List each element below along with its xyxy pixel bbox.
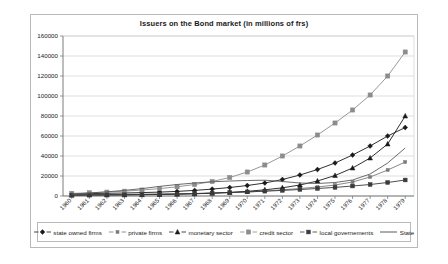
- data-point: [307, 230, 311, 234]
- legend-marker-triangle-icon: [169, 228, 186, 236]
- x-tick-label: 1979: [392, 197, 406, 211]
- data-point: [210, 191, 214, 195]
- data-point: [386, 74, 390, 78]
- x-tick-label: 1969: [217, 197, 231, 211]
- data-point: [245, 190, 249, 194]
- legend-item-private-firms[interactable]: private firms: [109, 228, 162, 236]
- y-tick-label: 80000: [41, 112, 59, 119]
- data-point: [193, 192, 197, 196]
- data-point: [403, 50, 407, 54]
- legend-item-state-owned-firms[interactable]: state owned firms: [34, 228, 102, 236]
- data-point: [158, 192, 162, 196]
- legend-label: monetary sector: [189, 229, 233, 236]
- data-point: [368, 183, 372, 187]
- data-point: [350, 108, 354, 112]
- x-tick-label: 1978: [375, 197, 389, 211]
- y-tick-label: 60000: [41, 132, 59, 139]
- x-tick-label: 1972: [269, 197, 283, 211]
- legend-item-State[interactable]: State: [380, 228, 414, 236]
- legend-label: State: [400, 229, 414, 236]
- data-point: [175, 192, 179, 196]
- chart-legend: state owned firmsprivate firmsmonetary s…: [37, 222, 411, 242]
- data-point: [105, 193, 109, 197]
- legend-label: state owned firms: [53, 229, 102, 236]
- data-point: [140, 193, 144, 197]
- legend-label: local governements: [320, 229, 374, 236]
- legend-marker-dash-dot-icon: [300, 228, 317, 236]
- x-tick-label: 1976: [340, 197, 354, 211]
- x-tick-label: 1973: [287, 197, 301, 211]
- data-point: [298, 144, 302, 148]
- data-point: [280, 189, 284, 193]
- x-tick-label: 1965: [147, 197, 161, 211]
- legend-label: credit sector: [259, 229, 293, 236]
- chart-container: Issuers on the Bond market (in millions …: [0, 0, 448, 264]
- data-point: [263, 163, 267, 167]
- data-point: [386, 181, 390, 185]
- y-tick-label: 100000: [37, 92, 58, 99]
- legend-marker-diamond-icon: [34, 228, 51, 236]
- data-point: [228, 175, 232, 179]
- data-point: [87, 193, 91, 197]
- data-point: [351, 184, 355, 188]
- data-point: [116, 231, 119, 234]
- data-point: [333, 121, 337, 125]
- x-tick-label: 1962: [94, 197, 108, 211]
- x-tick-label: 1977: [357, 197, 371, 211]
- x-tick-label: 1966: [164, 197, 178, 211]
- data-point: [246, 230, 250, 234]
- y-tick-label: 40000: [41, 152, 59, 159]
- data-point: [404, 161, 407, 164]
- legend-item-monetary-sector[interactable]: monetary sector: [169, 228, 233, 236]
- data-point: [228, 191, 232, 195]
- data-point: [316, 187, 320, 191]
- y-tick-label: 120000: [37, 72, 58, 79]
- data-point: [369, 176, 372, 179]
- data-point: [175, 185, 179, 189]
- x-tick-label: 1961: [76, 197, 90, 211]
- legend-marker-none-icon: [380, 228, 397, 236]
- legend-item-credit-sector[interactable]: credit sector: [240, 228, 293, 236]
- data-point: [40, 230, 45, 235]
- legend-label: private firms: [128, 229, 162, 236]
- y-tick-label: 140000: [37, 52, 58, 59]
- x-tick-label: 1974: [304, 197, 318, 211]
- x-tick-label: 1971: [252, 197, 266, 211]
- data-point: [351, 181, 354, 184]
- legend-item-local-governements[interactable]: local governements: [300, 228, 373, 236]
- data-point: [175, 229, 180, 234]
- x-tick-label: 1970: [234, 197, 248, 211]
- x-tick-label: 1968: [199, 197, 213, 211]
- data-point: [157, 187, 161, 191]
- data-point: [333, 186, 337, 190]
- data-point: [315, 133, 319, 137]
- data-point: [368, 93, 372, 97]
- x-tick-label: 1963: [111, 197, 125, 211]
- x-tick-label: 1964: [129, 197, 143, 211]
- y-tick-label: 0: [55, 192, 59, 199]
- data-point: [298, 188, 302, 192]
- legend-marker-square-icon: [240, 228, 257, 236]
- y-tick-label: 160000: [37, 32, 58, 39]
- data-point: [403, 178, 407, 182]
- data-point: [386, 169, 389, 172]
- data-point: [263, 189, 267, 193]
- x-tick-label: 1967: [182, 197, 196, 211]
- x-tick-label: 1960: [59, 197, 73, 211]
- data-point: [280, 154, 284, 158]
- x-tick-label: 1975: [322, 197, 336, 211]
- data-point: [123, 193, 127, 197]
- data-point: [245, 170, 249, 174]
- legend-marker-small-square-icon: [109, 228, 126, 236]
- y-tick-label: 20000: [41, 172, 59, 179]
